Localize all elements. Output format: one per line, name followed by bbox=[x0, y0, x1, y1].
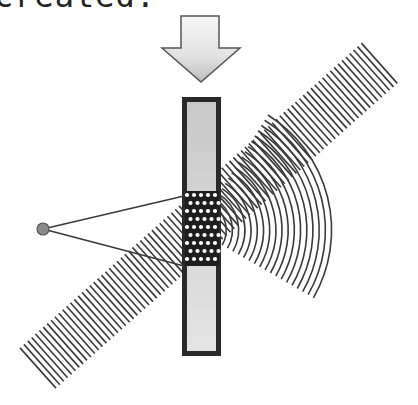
interference-pattern bbox=[185, 191, 221, 266]
object-rays bbox=[43, 196, 184, 266]
point-source-icon bbox=[37, 223, 49, 235]
down-arrow-icon bbox=[162, 16, 240, 82]
spherical-wave-arcs bbox=[212, 115, 332, 298]
hologram-diagram bbox=[0, 0, 418, 405]
